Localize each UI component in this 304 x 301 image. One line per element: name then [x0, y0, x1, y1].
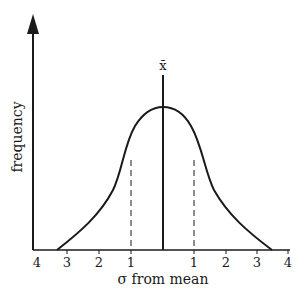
tick-label: 1	[127, 255, 135, 270]
x-tick-labels: 4 3 2 1 1 2 3 4	[33, 255, 292, 270]
normal-distribution-diagram: x̄ frequency σ from mean 4 3 2 1 1 2 3 4	[0, 0, 304, 301]
y-axis-label: frequency	[9, 101, 25, 172]
tick-label: 2	[222, 255, 230, 270]
mean-label: x̄	[159, 58, 167, 73]
tick-label: 4	[33, 255, 41, 270]
tick-label: 3	[253, 255, 261, 270]
tick-label: 1	[190, 255, 198, 270]
tick-label: 2	[95, 255, 103, 270]
tick-label: 3	[63, 255, 71, 270]
tick-label: 4	[284, 255, 292, 270]
x-axis-label: σ from mean	[118, 271, 209, 287]
y-axis-arrow-icon	[27, 14, 39, 34]
bell-curve	[57, 107, 272, 250]
